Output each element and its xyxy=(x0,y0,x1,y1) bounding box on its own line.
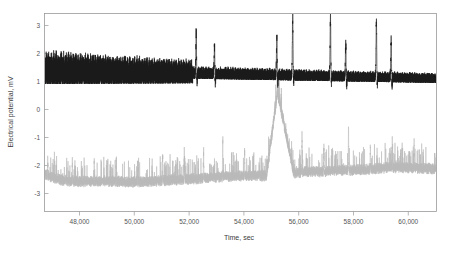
x-tick-label: 48,000 xyxy=(70,218,90,225)
x-axis-title: Time, sec xyxy=(224,234,255,241)
x-tick-label: 50,000 xyxy=(124,218,144,225)
x-tick-label: 60,000 xyxy=(398,218,418,225)
y-axis-title: Electrical potential, mV xyxy=(7,76,15,148)
y-tick-label: 2 xyxy=(36,50,40,57)
y-tick-label: -3 xyxy=(34,190,40,197)
figure-background xyxy=(0,0,452,253)
y-tick-label: 3 xyxy=(36,22,40,29)
x-tick-label: 54,000 xyxy=(234,218,254,225)
x-tick-label: 56,000 xyxy=(289,218,309,225)
x-tick-label: 52,000 xyxy=(179,218,199,225)
x-tick-label: 58,000 xyxy=(344,218,364,225)
y-tick-label: 0 xyxy=(36,106,40,113)
y-tick-label: 1 xyxy=(36,78,40,85)
electrical-potential-chart: 3 2 1 0 -1 -2 -3 48,000 50,000 52,000 54… xyxy=(0,0,452,253)
y-tick-label: -2 xyxy=(34,162,40,169)
y-tick-label: -1 xyxy=(34,134,40,141)
